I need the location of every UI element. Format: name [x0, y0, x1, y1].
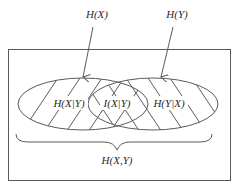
entropy-venn-diagram: H(X) H(Y) H(X|Y) I(X|Y) H(Y|X) H(X,Y)	[0, 0, 236, 188]
joint-entropy-label: H(X,Y)	[101, 154, 133, 167]
mutual-information-label: I(X|Y)	[103, 97, 131, 110]
joint-brace	[16, 134, 212, 150]
hx-given-y-label: H(X|Y)	[52, 97, 84, 110]
hy-arrow	[161, 27, 173, 77]
hx-arrow	[83, 27, 93, 77]
hy-label: H(Y)	[165, 8, 188, 21]
hx-label: H(X)	[85, 8, 108, 21]
hy-given-x-label: H(Y|X)	[152, 97, 184, 110]
